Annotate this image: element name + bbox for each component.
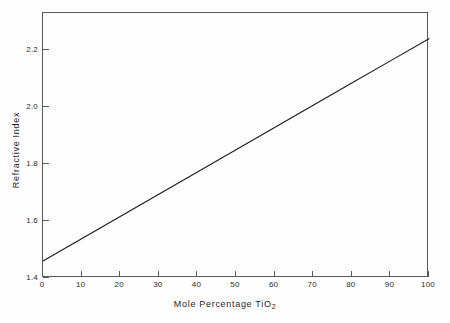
- y-axis-title: Refractive Index: [11, 80, 21, 220]
- plot-frame: [42, 12, 428, 277]
- x-axis-tick: [389, 271, 390, 277]
- y-axis-tick: [43, 49, 49, 50]
- x-tick-label: 20: [115, 280, 124, 289]
- x-axis-tick: [81, 271, 82, 277]
- y-tick-label: 2.2: [18, 45, 38, 54]
- x-tick-label: 50: [230, 280, 239, 289]
- x-tick-label: 80: [346, 280, 355, 289]
- x-tick-label: 100: [421, 280, 435, 289]
- x-axis-tick: [274, 271, 275, 277]
- y-axis-tick: [43, 277, 49, 278]
- data-series-line: [43, 39, 429, 261]
- x-axis-tick: [428, 271, 429, 277]
- x-tick-label: 10: [76, 280, 85, 289]
- x-tick-label: 70: [308, 280, 317, 289]
- x-axis-title: Mole Percentage TiO2: [0, 299, 450, 310]
- y-tick-label: 2.0: [18, 102, 38, 111]
- x-axis-tick: [235, 271, 236, 277]
- x-axis-tick: [312, 271, 313, 277]
- plot-area: [43, 13, 427, 276]
- x-axis-tick: [119, 271, 120, 277]
- y-tick-label: 1.4: [18, 273, 38, 282]
- y-axis-tick: [43, 220, 49, 221]
- x-axis-title-subscript: 2: [272, 303, 277, 310]
- x-tick-label: 0: [40, 280, 45, 289]
- x-tick-label: 30: [153, 280, 162, 289]
- x-axis-tick: [158, 271, 159, 277]
- y-axis-tick: [43, 106, 49, 107]
- x-tick-label: 90: [385, 280, 394, 289]
- data-line-layer: [43, 13, 429, 278]
- figure-canvas: 0102030405060708090100 1.41.61.82.02.2 M…: [0, 0, 450, 323]
- y-axis-tick: [43, 163, 49, 164]
- x-axis-tick: [351, 271, 352, 277]
- x-tick-label: 60: [269, 280, 278, 289]
- x-axis-tick: [196, 271, 197, 277]
- y-tick-label: 1.8: [18, 159, 38, 168]
- x-axis-title-text: Mole Percentage TiO: [174, 299, 272, 309]
- x-tick-label: 40: [192, 280, 201, 289]
- y-tick-label: 1.6: [18, 216, 38, 225]
